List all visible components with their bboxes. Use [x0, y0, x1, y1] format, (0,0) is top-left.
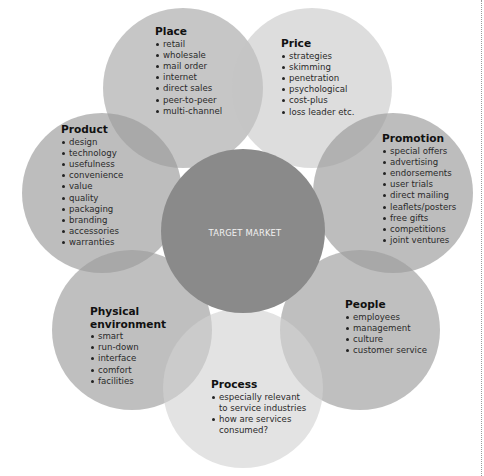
- petal-process: Process especially relevant to service i…: [211, 378, 311, 436]
- list-item: design: [61, 137, 123, 148]
- petal-place: Place retail wholesale mail order intern…: [155, 25, 222, 117]
- list-item: packaging: [61, 204, 123, 215]
- list-item: joint ventures: [382, 235, 456, 246]
- petal-price: Price strategies skimming penetration ps…: [281, 37, 354, 118]
- list-item: leaflets/posters: [382, 202, 456, 213]
- list-item: management: [345, 323, 427, 334]
- list-item: accessories: [61, 226, 123, 237]
- list-item: especially relevant to service industrie…: [211, 392, 311, 414]
- list-item: value: [61, 181, 123, 192]
- list-item: cost-plus: [281, 95, 354, 106]
- list-item: endorsements: [382, 168, 456, 179]
- petal-title: People: [345, 298, 427, 311]
- list-item: direct mailing: [382, 190, 456, 201]
- list-item: how are services consumed?: [211, 414, 311, 436]
- list-item: multi-channel: [155, 106, 222, 117]
- list-item: retail: [155, 39, 222, 50]
- list-item: internet: [155, 72, 222, 83]
- petal-product: Product design technology usefulness con…: [61, 123, 123, 249]
- list-item: penetration: [281, 73, 354, 84]
- list-item: technology: [61, 148, 123, 159]
- list-item: advertising: [382, 157, 456, 168]
- list-item: customer service: [345, 345, 427, 356]
- list-item: employees: [345, 312, 427, 323]
- petal-people: People employees management culture cust…: [345, 298, 427, 356]
- list-item: quality: [61, 193, 123, 204]
- petal-title: Product: [61, 123, 123, 136]
- list-item: strategies: [281, 51, 354, 62]
- list-item: interface: [90, 353, 180, 364]
- list-item: mail order: [155, 61, 222, 72]
- list-item: user trials: [382, 179, 456, 190]
- petal-title: Process: [211, 378, 311, 391]
- petal-title: Physical environment: [90, 305, 180, 330]
- target-market-label: TARGET MARKET: [195, 228, 295, 238]
- list-item: direct sales: [155, 83, 222, 94]
- marketing-mix-diagram: TARGET MARKET Place retail wholesale mai…: [0, 0, 484, 476]
- list-item: free gifts: [382, 213, 456, 224]
- list-item: usefulness: [61, 159, 123, 170]
- list-item: special offers: [382, 146, 456, 157]
- list-item: peer-to-peer: [155, 95, 222, 106]
- list-item: competitions: [382, 224, 456, 235]
- list-item: culture: [345, 334, 427, 345]
- petal-title: Promotion: [382, 132, 456, 145]
- list-item: loss leader etc.: [281, 107, 354, 118]
- petal-title: Price: [281, 37, 354, 50]
- petal-title: Place: [155, 25, 222, 38]
- list-item: smart: [90, 331, 180, 342]
- list-item: warranties: [61, 237, 123, 248]
- petal-physical-environment: Physical environment smart run-down inte…: [90, 305, 180, 387]
- list-item: branding: [61, 215, 123, 226]
- list-item: run-down: [90, 342, 180, 353]
- list-item: facilities: [90, 376, 180, 387]
- list-item: comfort: [90, 365, 180, 376]
- list-item: wholesale: [155, 50, 222, 61]
- list-item: psychological: [281, 84, 354, 95]
- list-item: convenience: [61, 170, 123, 181]
- list-item: skimming: [281, 62, 354, 73]
- petal-promotion: Promotion special offers advertising end…: [382, 132, 456, 246]
